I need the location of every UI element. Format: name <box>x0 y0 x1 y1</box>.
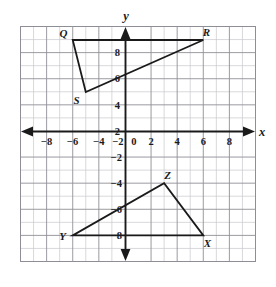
x-tick-neg4: −4 <box>93 136 105 147</box>
vertex-label-s: S <box>73 94 79 106</box>
x-tick-neg6: −6 <box>67 136 78 147</box>
x-tick-neg2: −2 <box>112 136 123 147</box>
x-tick-pos2: 2 <box>148 136 153 147</box>
y-tick-neg4: −4 <box>111 178 123 189</box>
y-tick-pos4: 4 <box>115 100 121 111</box>
x-tick-neg8: −8 <box>41 136 52 147</box>
x-tick-pos4: 4 <box>175 136 181 147</box>
y-tick-pos2: 2 <box>115 126 120 137</box>
coordinate-plane-svg: −8 −6 −4 −2 0 2 4 6 8 8 6 4 2 −2 −4 −6 −… <box>0 0 276 287</box>
y-tick-neg2: −2 <box>111 152 122 163</box>
x-axis-label: x <box>258 125 265 139</box>
vertex-label-r: R <box>202 26 210 38</box>
grid-plot-area <box>21 27 256 262</box>
x-tick-pos6: 6 <box>201 136 206 147</box>
y-axis-label: y <box>121 9 129 23</box>
x-tick-zero: 0 <box>131 136 136 147</box>
grid-background <box>21 27 256 262</box>
y-tick-pos8: 8 <box>115 47 120 58</box>
x-tick-pos8: 8 <box>227 136 232 147</box>
coordinate-plane-figure: −8 −6 −4 −2 0 2 4 6 8 8 6 4 2 −2 −4 −6 −… <box>0 0 276 287</box>
vertex-label-x: X <box>203 237 212 249</box>
vertex-label-q: Q <box>60 27 68 39</box>
vertex-label-z: Z <box>163 169 171 181</box>
